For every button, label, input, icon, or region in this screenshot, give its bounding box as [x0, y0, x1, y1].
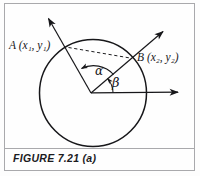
- angle-alpha-label: α: [95, 65, 103, 77]
- chord-ab-dashed: [69, 48, 131, 59]
- figure-caption: FIGURE 7.21 (a): [13, 152, 96, 164]
- horizontal-axis-ray: [91, 92, 178, 93]
- angle-beta-label: β: [112, 76, 120, 89]
- point-a-label-text: A (x₁, y₁): [9, 39, 50, 51]
- point-a-label: A (x₁, y₁): [9, 40, 50, 52]
- point-b-label-text: B (x₂, y₂): [137, 51, 179, 63]
- point-b-label: B (x₂, y₂): [137, 52, 179, 64]
- figure-drawing: [0, 0, 200, 176]
- figure-7-21-a: A (x₁, y₁) B (x₂, y₂) α β FIGURE 7.21 (a…: [0, 0, 200, 176]
